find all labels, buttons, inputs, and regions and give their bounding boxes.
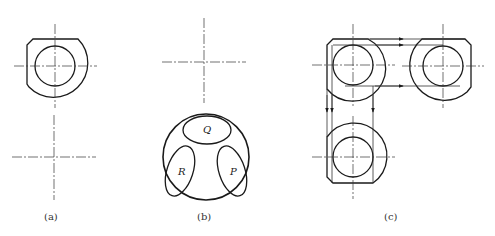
view-top-left — [312, 24, 395, 106]
drawing-svg: (a) Q R P (b) — [0, 0, 495, 236]
sphere-view: Q R P — [160, 114, 253, 200]
panel-c: (c) — [312, 24, 484, 222]
face-label-r: R — [177, 166, 186, 177]
panel-a: (a) — [12, 24, 97, 222]
panel-b: Q R P (b) — [160, 18, 253, 222]
crosshair-b — [162, 18, 246, 103]
label-c: (c) — [384, 211, 398, 222]
label-b: (b) — [197, 211, 211, 222]
view-top-right — [402, 24, 484, 108]
face-label-q: Q — [203, 124, 211, 135]
projection-lines — [327, 39, 465, 183]
technical-drawing-figure: (a) Q R P (b) — [0, 0, 495, 236]
label-a: (a) — [44, 211, 58, 222]
crosshair-a — [12, 115, 96, 200]
part-view-a — [14, 24, 97, 108]
face-label-p: P — [229, 166, 237, 177]
view-bottom — [312, 116, 395, 199]
